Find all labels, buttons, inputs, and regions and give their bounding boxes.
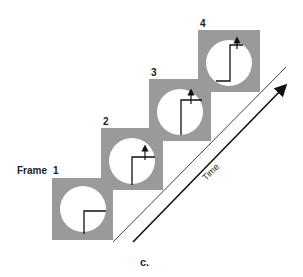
frame-1: [52, 178, 113, 240]
frames-diagram: Time: [0, 0, 303, 277]
time-label: Time: [200, 161, 221, 182]
frame-1-label: 1: [53, 165, 59, 176]
frame-prefix-label: Frame: [17, 165, 47, 176]
caption: c.: [140, 256, 149, 268]
frame-4-label: 4: [200, 18, 206, 29]
frame-2-label: 2: [103, 116, 109, 127]
frame-3-label: 3: [151, 67, 157, 78]
